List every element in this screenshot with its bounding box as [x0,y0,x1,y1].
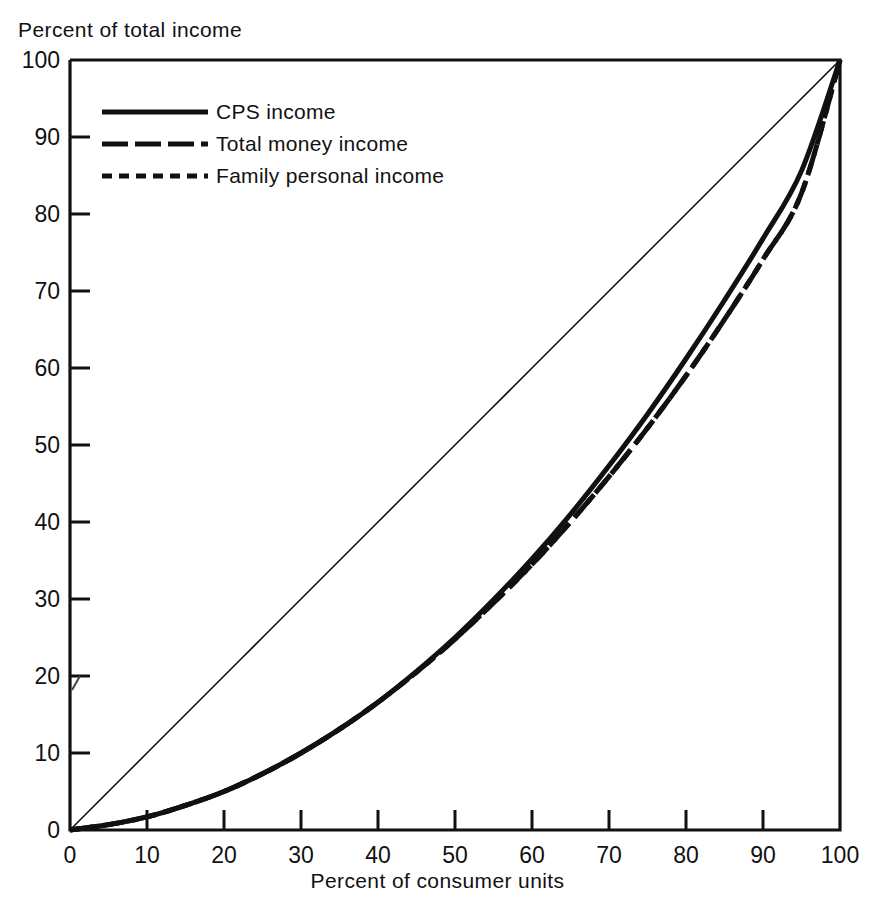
legend-swatch-dashed-long [100,135,210,153]
legend-item-family-personal-income: Family personal income [100,160,520,192]
x-tick-label: 100 [821,842,859,869]
y-tick-label: 70 [34,278,60,305]
legend-item-cps-income: CPS income [100,96,520,128]
y-tick-label: 90 [34,124,60,151]
x-axis-ticks [147,810,763,830]
legend-item-total-money-income: Total money income [100,128,520,160]
x-tick-label: 40 [365,842,391,869]
y-tick-label: 0 [47,817,60,844]
x-tick-label: 10 [134,842,160,869]
y-tick-label: 60 [34,355,60,382]
x-tick-label: 30 [288,842,314,869]
x-tick-label: 80 [673,842,699,869]
legend-swatch-solid [100,103,210,121]
y-tick-label: 100 [22,47,60,74]
stray-ink-mark [72,676,80,690]
y-tick-label: 30 [34,586,60,613]
legend-label-total-money-income: Total money income [210,132,408,156]
y-tick-label: 50 [34,432,60,459]
y-tick-label: 40 [34,509,60,536]
lorenz-curve-figure: Percent of total income 0102030405060708… [0,0,875,909]
chart-legend: CPS income Total money income Family per… [100,96,520,192]
legend-swatch-dashed-short [100,167,210,185]
x-tick-label: 70 [596,842,622,869]
y-tick-label: 10 [34,740,60,767]
x-tick-label: 90 [750,842,776,869]
x-axis-title: Percent of consumer units [0,869,875,893]
x-tick-label: 50 [442,842,468,869]
y-axis-ticks [70,137,90,753]
x-tick-label: 20 [211,842,237,869]
legend-label-cps-income: CPS income [210,100,336,124]
y-tick-label: 20 [34,663,60,690]
legend-label-family-personal-income: Family personal income [210,164,444,188]
x-tick-label: 0 [64,842,77,869]
y-tick-label: 80 [34,201,60,228]
x-tick-label: 60 [519,842,545,869]
